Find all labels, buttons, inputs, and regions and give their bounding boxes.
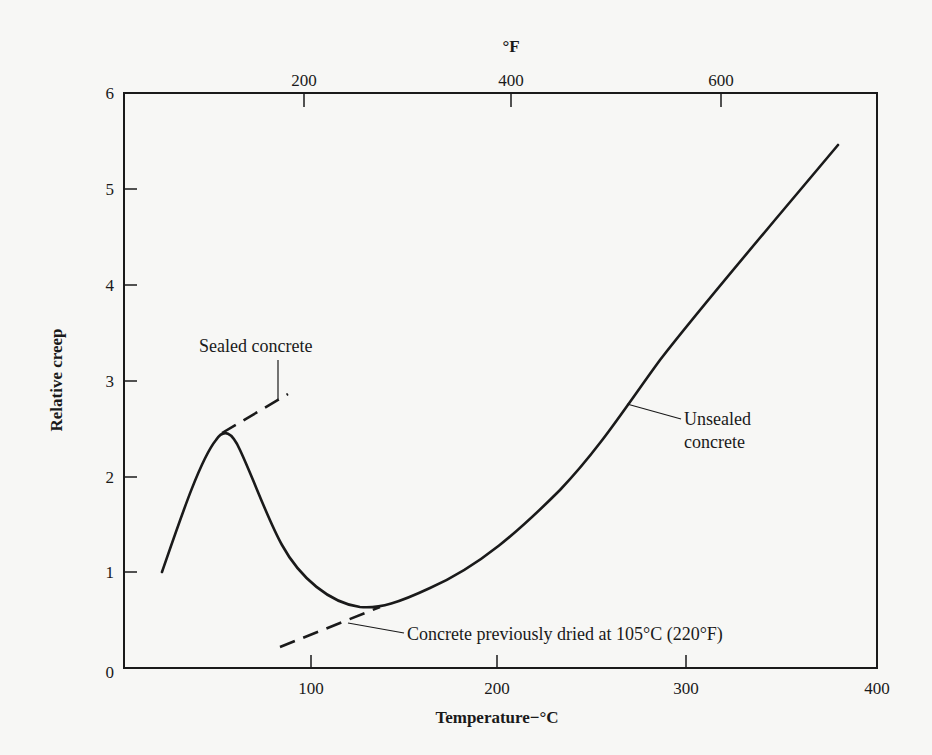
unsealed-concrete-label-line2: concrete [684, 432, 745, 452]
y-tick-1: 1 [106, 563, 115, 582]
x-tick-100: 100 [298, 679, 324, 698]
y-tick-5: 5 [106, 180, 115, 199]
y-axis-ticks [124, 189, 137, 572]
y-tick-4: 4 [106, 276, 115, 295]
top-axis-title: °F [502, 37, 519, 56]
y-axis-tick-labels: 0 1 2 3 4 5 6 [106, 84, 115, 682]
top-axis-tick-labels: 200 400 600 [291, 71, 734, 90]
y-tick-0: 0 [106, 663, 115, 682]
sealed-concrete-dashed-line [222, 394, 288, 433]
dried-concrete-dashed-line [280, 607, 380, 647]
y-tick-2: 2 [106, 468, 115, 487]
x-axis-ticks [311, 655, 686, 668]
sealed-concrete-label: Sealed concrete [199, 336, 312, 356]
x-axis-tick-labels: 100 200 300 400 [298, 679, 890, 698]
x-tick-200: 200 [484, 679, 510, 698]
x-axis-title: Temperature−°C [435, 708, 558, 727]
unsealed-concrete-curve [162, 145, 838, 607]
f-tick-400: 400 [498, 71, 524, 90]
unsealed-leader-line [627, 404, 681, 419]
x-tick-400: 400 [864, 679, 890, 698]
y-axis-title: Relative creep [47, 328, 66, 431]
plot-frame [124, 93, 877, 668]
top-axis-ticks [304, 93, 721, 107]
dried-concrete-label: Concrete previously dried at 105°C (220°… [407, 624, 723, 645]
y-tick-3: 3 [106, 372, 115, 391]
unsealed-concrete-label-line1: Unsealed [684, 409, 751, 429]
x-tick-300: 300 [673, 679, 699, 698]
dried-leader-line [348, 623, 404, 633]
f-tick-600: 600 [708, 71, 734, 90]
f-tick-200: 200 [291, 71, 317, 90]
creep-temperature-chart: 0 1 2 3 4 5 6 100 200 300 400 Temperatur… [0, 0, 932, 755]
y-tick-6: 6 [106, 84, 115, 103]
